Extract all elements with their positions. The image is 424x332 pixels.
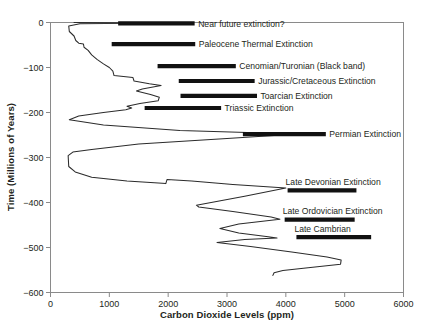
y-tick-label: −300	[23, 153, 43, 163]
x-tick-label: 0	[48, 299, 53, 309]
y-tick-label: 0	[38, 18, 43, 28]
y-axis-tick-labels: 0−100−200−300−400−500−600	[23, 18, 43, 298]
y-axis-title: Time (Millions of Years)	[5, 103, 16, 211]
extinction-annotation: Triassic Extinction	[145, 103, 294, 113]
extinction-label: Late Cambrian	[294, 224, 351, 234]
y-tick-label: −200	[23, 108, 43, 118]
y-tick-label: −500	[23, 243, 43, 253]
x-tick-label: 4000	[276, 299, 296, 309]
extinction-annotation: Jurassic/Cretaceous Extinction	[179, 76, 376, 86]
y-tick-label: −600	[23, 288, 43, 298]
y-tick-label: −400	[23, 198, 43, 208]
extinction-label: Toarcian Extinction	[261, 91, 333, 101]
extinction-annotation: Cenomian/Turonian (Black band)	[158, 61, 366, 71]
co2-extinction-chart: Near future extinction?Paleocene Thermal…	[0, 0, 424, 332]
x-axis-tick-labels: 0100020003000400050006000	[48, 299, 414, 309]
extinction-label: Triassic Extinction	[225, 103, 294, 113]
x-tick-label: 5000	[335, 299, 355, 309]
x-tick-label: 6000	[393, 299, 413, 309]
x-tick-label: 3000	[217, 299, 237, 309]
y-axis-ticks	[46, 23, 51, 293]
x-tick-label: 2000	[158, 299, 178, 309]
y-tick-label: −100	[23, 63, 43, 73]
chart-canvas: Near future extinction?Paleocene Thermal…	[0, 0, 424, 332]
extinction-annotation: Permian Extinction	[243, 129, 401, 139]
extinction-label: Late Ordovician Extinction	[283, 206, 383, 216]
extinction-annotation: Late Ordovician Extinction	[283, 206, 383, 220]
extinction-label: Permian Extinction	[329, 129, 401, 139]
extinction-label: Jurassic/Cretaceous Extinction	[258, 76, 376, 86]
extinction-annotation: Near future extinction?	[118, 19, 285, 29]
x-axis-ticks	[51, 293, 404, 298]
extinction-annotation: Paleocene Thermal Extinction	[112, 39, 313, 49]
extinction-label: Late Devonian Extinction	[286, 177, 381, 187]
x-tick-label: 1000	[99, 299, 119, 309]
extinction-annotation: Late Cambrian	[294, 224, 371, 238]
extinction-label: Near future extinction?	[198, 19, 285, 29]
extinction-annotation: Late Devonian Extinction	[286, 177, 381, 191]
extinction-label: Cenomian/Turonian (Black band)	[239, 61, 365, 71]
extinction-label: Paleocene Thermal Extinction	[199, 39, 313, 49]
x-axis-title: Carbon Dioxide Levels (ppm)	[160, 309, 294, 320]
extinction-annotations: Near future extinction?Paleocene Thermal…	[112, 19, 402, 238]
extinction-annotation: Toarcian Extinction	[181, 91, 333, 101]
